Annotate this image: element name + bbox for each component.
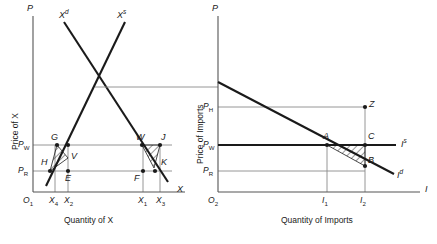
point-label-a: A	[323, 132, 329, 141]
import-supply-curve-label: Is	[401, 138, 407, 149]
right-y-axis-symbol: P	[212, 4, 218, 13]
right-price-tick-pw: PW	[203, 140, 214, 151]
point-label-g: G	[51, 133, 58, 142]
right-qty-tick-i2: I2	[360, 196, 366, 207]
right-qty-tick-i1: I1	[322, 196, 328, 207]
point-label-z: Z	[369, 100, 375, 109]
point-label-v: V	[71, 152, 77, 161]
right-x-axis-title: Quantity of Imports	[281, 216, 353, 225]
diagram-canvas	[0, 0, 437, 244]
point-label-e: E	[65, 174, 71, 183]
point-label-j: J	[161, 133, 166, 142]
left-price-tick-pr: PR	[18, 166, 28, 177]
supply-curve-label: Xs	[117, 9, 126, 20]
left-x-axis-symbol: X	[177, 185, 183, 194]
right-price-tick-ph: PH	[203, 102, 213, 113]
left-qty-tick-x4: X4	[49, 196, 58, 207]
right-price-gridlines	[218, 107, 365, 171]
point-label-h: H	[41, 158, 48, 167]
right-x-axis-symbol: I	[425, 185, 428, 194]
left-qty-tick-x2: X2	[64, 196, 73, 207]
left-x-axis-title: Quantity of X	[64, 216, 113, 225]
right-price-tick-pr: PR	[203, 166, 213, 177]
point-label-b: B	[368, 156, 374, 165]
left-demand-curve	[64, 22, 168, 182]
left-origin-label: O1	[23, 196, 33, 207]
demand-curve-label: Xd	[59, 9, 69, 20]
left-qty-tick-x1: X1	[138, 196, 147, 207]
point-label-w: W	[136, 133, 145, 142]
import-demand-curve-label: Id	[397, 169, 403, 180]
point-label-f: F	[134, 174, 140, 183]
tariff-diagram: P Price of X Quantity of X X Xd Xs PW PR…	[0, 0, 437, 244]
left-price-tick-pw: PW	[18, 140, 29, 151]
right-origin-label: O2	[208, 196, 218, 207]
point-label-k: K	[161, 158, 167, 167]
right-axes	[218, 16, 420, 192]
left-qty-tick-x3: X3	[156, 196, 165, 207]
left-y-axis-symbol: P	[27, 4, 33, 13]
left-supply-curve	[46, 22, 125, 186]
right-y-axis-title: Price of Imports	[196, 104, 205, 164]
point-label-c: C	[368, 132, 375, 141]
